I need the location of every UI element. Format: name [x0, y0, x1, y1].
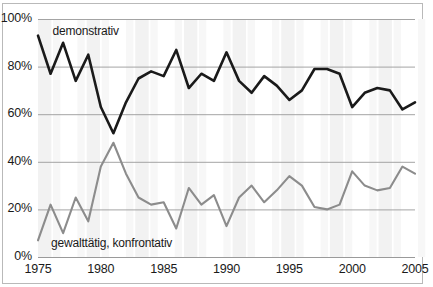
y-tick-label-80: 80%: [0, 59, 32, 73]
x-tick-label-1985: 1985: [139, 262, 189, 276]
y-tick-label-100: 100%: [0, 11, 32, 25]
x-tick-label-2000: 2000: [327, 262, 377, 276]
series-label-gewalttaetig: gewalttätig, konfrontativ: [51, 236, 172, 250]
y-tick-label-60: 60%: [0, 106, 32, 120]
x-tick-label-1990: 1990: [202, 262, 252, 276]
y-tick-label-40: 40%: [0, 154, 32, 168]
x-tick-label-1980: 1980: [76, 262, 126, 276]
series-label-demonstrativ: demonstrativ: [53, 24, 119, 38]
x-tick-label-2005: 2005: [390, 262, 433, 276]
vertical-bands-group: [38, 19, 425, 257]
y-tick-label-0: 0%: [0, 249, 32, 263]
x-tick-label-1995: 1995: [264, 262, 314, 276]
y-tick-label-20: 20%: [0, 201, 32, 215]
x-tick-label-1975: 1975: [13, 262, 63, 276]
